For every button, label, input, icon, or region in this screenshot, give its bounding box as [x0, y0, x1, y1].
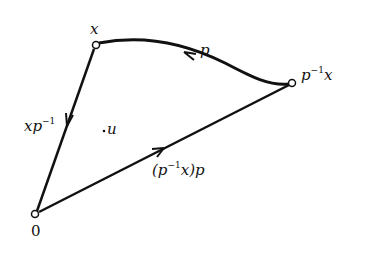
- diagram-canvas: [0, 0, 370, 253]
- label-edge-xp-inv-sup: −1: [42, 116, 55, 126]
- label-p-inv-x: p−1x: [301, 68, 332, 83]
- node-x: [93, 42, 100, 49]
- label-p-inv-x-sup: −1: [311, 65, 324, 75]
- label-edge-post: x)p: [181, 161, 205, 179]
- label-p-inv-x-base: p: [301, 66, 311, 84]
- node-p-inv-x: [289, 80, 296, 87]
- arrow-head-p-icon: [184, 52, 196, 60]
- node-zero: [32, 211, 39, 218]
- point-u-dot: [103, 130, 106, 133]
- label-edge-p-inv-x-p: (p−1x)p: [152, 163, 205, 178]
- edge-p: [99, 40, 289, 84]
- label-edge-xp-inv-base: xp: [24, 117, 42, 135]
- label-point-u: u: [107, 122, 117, 137]
- label-edge-pre: (p: [152, 161, 167, 179]
- label-p-inv-x-tail: x: [324, 66, 332, 84]
- label-zero: 0: [31, 224, 41, 239]
- label-edge-sup: −1: [167, 160, 180, 170]
- label-edge-p: p: [200, 43, 210, 58]
- label-edge-xp-inv: xp−1: [24, 119, 55, 134]
- label-x: x: [90, 22, 98, 37]
